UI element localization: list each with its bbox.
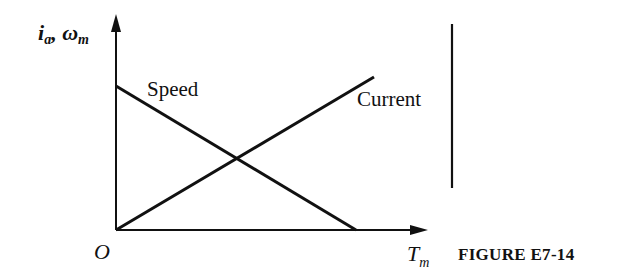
plot-canvas bbox=[0, 0, 625, 274]
y-axis-arrow-icon bbox=[111, 14, 121, 32]
x-axis-sub: m bbox=[419, 255, 429, 270]
current-label: Current bbox=[357, 89, 421, 110]
motor-characteristics-figure: ia, ωm Speed Current O Tm FIGURE E7-14 bbox=[0, 0, 625, 274]
origin-label: O bbox=[94, 241, 110, 263]
x-axis-symbol: T bbox=[407, 241, 419, 266]
x-axis-arrow-icon bbox=[410, 225, 428, 235]
y-axis-separator: , bbox=[51, 20, 62, 45]
figure-caption: FIGURE E7-14 bbox=[458, 246, 574, 263]
y-axis-sub-speed: m bbox=[78, 32, 89, 47]
x-axis-label: Tm bbox=[407, 243, 429, 270]
y-axis-label: ia, ωm bbox=[38, 22, 89, 47]
y-axis-symbol-speed: ω bbox=[62, 20, 78, 45]
speed-label: Speed bbox=[147, 79, 198, 100]
